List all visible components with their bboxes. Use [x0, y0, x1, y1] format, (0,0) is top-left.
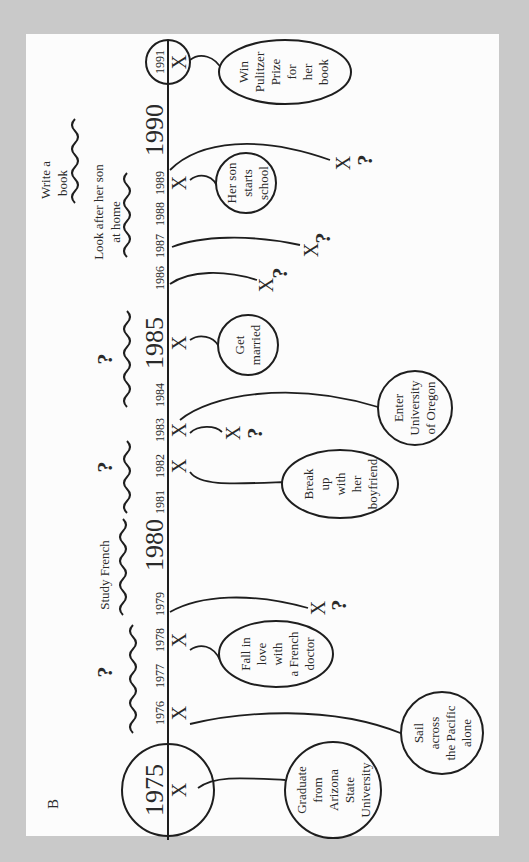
- year-1985: 1985: [140, 317, 169, 369]
- svg-text:with: with: [333, 472, 348, 496]
- unknown-q-1983: ?: [242, 428, 267, 439]
- svg-text:a French: a French: [286, 631, 301, 677]
- x-mark-1982: X: [168, 458, 190, 473]
- x-mark-1983: X: [168, 422, 190, 437]
- x-mark-1976: X: [168, 705, 190, 720]
- period-q-1984-1986: ?: [92, 354, 117, 365]
- x-mark-1991: X: [168, 54, 190, 69]
- svg-text:at home: at home: [108, 201, 123, 243]
- unknown-x-1989: X: [332, 155, 354, 170]
- year-1979: 1979: [153, 592, 167, 616]
- unknown-q-1989: ?: [352, 155, 377, 166]
- unknown-q-1987: ?: [310, 233, 335, 244]
- svg-text:Arizona: Arizona: [326, 769, 341, 811]
- year-1987: 1987: [153, 234, 167, 258]
- period-q-1981-1983: ?: [92, 462, 117, 473]
- svg-text:Fall in: Fall in: [238, 637, 253, 671]
- figure-label: B: [45, 799, 61, 809]
- year-1975: 1975: [140, 764, 169, 816]
- year-1977: 1977: [153, 664, 167, 688]
- year-1991: 1991: [153, 50, 167, 74]
- unknown-x-1983: X: [222, 425, 244, 440]
- year-1980: 1980: [140, 519, 169, 571]
- svg-text:married: married: [248, 324, 263, 365]
- timeline-diagram: B 1975 1976 1977 1978 1979 1980 1981 198…: [0, 0, 529, 862]
- svg-text:University: University: [358, 762, 373, 817]
- period-label-study-french: Study French: [97, 540, 112, 610]
- svg-text:for: for: [284, 64, 299, 80]
- x-mark-1985: X: [168, 335, 190, 350]
- svg-text:Enter: Enter: [391, 393, 406, 422]
- svg-text:boyfriend: boyfriend: [365, 458, 380, 509]
- svg-text:up: up: [317, 478, 332, 491]
- svg-text:school: school: [256, 166, 271, 200]
- year-1989: 1989: [153, 171, 167, 195]
- svg-text:State: State: [342, 777, 357, 803]
- svg-text:book: book: [55, 170, 70, 197]
- svg-text:Look after her son: Look after her son: [91, 164, 106, 260]
- svg-text:Prize: Prize: [268, 58, 283, 85]
- svg-text:with: with: [270, 642, 285, 666]
- svg-text:Break: Break: [301, 468, 316, 500]
- svg-text:starts: starts: [240, 169, 255, 196]
- year-1981: 1981: [153, 490, 167, 514]
- svg-text:her: her: [300, 63, 315, 80]
- svg-text:Sail: Sail: [411, 723, 426, 744]
- svg-text:Graduate: Graduate: [294, 766, 309, 814]
- year-1990: 1990: [140, 104, 169, 156]
- svg-text:the Pacific: the Pacific: [443, 705, 458, 760]
- year-1984: 1984: [153, 383, 167, 407]
- svg-text:Pulitzer: Pulitzer: [252, 51, 267, 92]
- svg-text:across: across: [427, 717, 442, 750]
- svg-text:Get: Get: [232, 335, 247, 354]
- bubble-graduate-text: Graduate from Arizona State University: [294, 762, 373, 817]
- svg-text:Write a: Write a: [38, 161, 53, 199]
- year-1986: 1986: [153, 266, 167, 290]
- svg-text:of Oregon: of Oregon: [423, 381, 438, 435]
- unknown-q-1986: ?: [267, 268, 292, 279]
- year-1976: 1976: [153, 701, 167, 725]
- year-1988: 1988: [153, 202, 167, 226]
- unknown-q-1979: ?: [326, 600, 351, 611]
- svg-text:Win: Win: [236, 61, 251, 83]
- svg-text:book: book: [316, 59, 331, 86]
- svg-text:from: from: [310, 777, 325, 802]
- year-1978: 1978: [153, 628, 167, 652]
- x-mark-1989: X: [168, 175, 190, 190]
- year-1982: 1982: [153, 454, 167, 478]
- svg-text:Her son: Her son: [224, 162, 239, 203]
- svg-text:love: love: [254, 643, 269, 666]
- period-q-1976-1979: ?: [92, 667, 117, 678]
- svg-text:alone: alone: [459, 719, 474, 747]
- svg-text:her: her: [349, 475, 364, 492]
- svg-text:University: University: [407, 380, 422, 435]
- x-mark-1975: X: [168, 782, 190, 797]
- year-1983: 1983: [153, 418, 167, 442]
- x-mark-1978: X: [168, 632, 190, 647]
- svg-text:doctor: doctor: [302, 637, 317, 671]
